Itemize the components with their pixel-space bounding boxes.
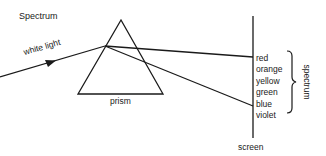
prism-label: prism	[110, 97, 131, 106]
color-yellow: yellow	[256, 76, 282, 87]
color-violet: violet	[256, 110, 282, 121]
color-orange: orange	[256, 64, 282, 75]
color-green: green	[256, 87, 282, 98]
prism-shape	[78, 20, 163, 94]
color-list: red orange yellow green blue violet	[256, 53, 282, 121]
arrow-icon	[45, 60, 56, 67]
color-blue: blue	[256, 99, 282, 110]
spectrum-label: spectrum	[302, 62, 312, 102]
diagram-title: Spectrum	[19, 12, 58, 21]
screen-label: screen	[238, 143, 264, 152]
brace-icon	[287, 51, 296, 113]
color-red: red	[256, 53, 282, 64]
